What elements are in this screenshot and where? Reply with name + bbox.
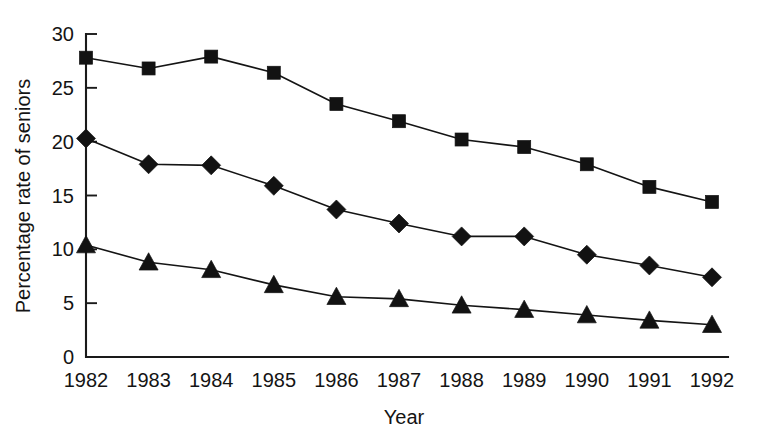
data-series — [77, 129, 722, 287]
y-tick-label: 15 — [52, 185, 74, 207]
y-axis-title: Percentage rate of seniors — [12, 79, 34, 314]
data-point-marker — [330, 97, 343, 110]
x-tick-label: 1984 — [189, 369, 234, 391]
x-tick-label: 1990 — [565, 369, 610, 391]
y-tick-label-group: 051015202530 — [52, 23, 74, 368]
data-series — [80, 50, 719, 208]
data-point-marker — [267, 66, 280, 79]
x-tick-label: 1985 — [252, 369, 297, 391]
data-point-marker — [393, 115, 406, 128]
axes-group — [86, 34, 728, 357]
data-point-marker — [264, 176, 283, 195]
data-point-marker — [515, 227, 534, 246]
y-tick-label: 20 — [52, 131, 74, 153]
series-group — [77, 50, 722, 332]
data-point-marker — [640, 256, 659, 275]
data-point-marker — [142, 62, 155, 75]
data-point-marker — [205, 50, 218, 63]
data-point-marker — [703, 268, 722, 287]
series-line — [86, 57, 712, 202]
x-axis-title: Year — [384, 406, 425, 428]
data-point-marker — [455, 133, 468, 146]
x-tick-label: 1988 — [439, 369, 484, 391]
data-point-marker — [77, 236, 96, 253]
data-point-marker — [202, 156, 221, 175]
data-point-marker — [518, 141, 531, 154]
y-tick-label: 25 — [52, 77, 74, 99]
x-tick-label: 1987 — [377, 369, 422, 391]
data-point-marker — [580, 158, 593, 171]
x-tick-label: 1983 — [126, 369, 171, 391]
series-line — [86, 245, 712, 325]
data-point-marker — [577, 245, 596, 264]
data-point-marker — [643, 180, 656, 193]
data-point-marker — [139, 155, 158, 174]
axis-spines — [86, 34, 728, 357]
x-tick-label: 1982 — [64, 369, 109, 391]
line-chart: 051015202530 198219831984198519861987198… — [0, 0, 757, 433]
data-point-marker — [139, 253, 158, 270]
data-point-marker — [390, 214, 409, 233]
data-point-marker — [706, 195, 719, 208]
x-tick-label-group: 1982198319841985198619871988198919901991… — [64, 369, 735, 391]
y-tick-label: 5 — [63, 292, 74, 314]
y-tick-label: 0 — [63, 346, 74, 368]
x-tick-label: 1992 — [690, 369, 735, 391]
y-tick-label: 30 — [52, 23, 74, 45]
x-tick-label: 1989 — [502, 369, 547, 391]
plot-area: 051015202530 198219831984198519861987198… — [52, 23, 735, 391]
x-tick-label: 1991 — [627, 369, 672, 391]
data-point-marker — [452, 227, 471, 246]
data-series — [77, 236, 722, 333]
data-point-marker — [77, 129, 96, 148]
y-tick-label: 10 — [52, 238, 74, 260]
x-tick-label: 1986 — [314, 369, 359, 391]
y-tick-group — [86, 34, 97, 357]
chart-figure: 051015202530 198219831984198519861987198… — [0, 0, 757, 433]
series-line — [86, 138, 712, 277]
data-point-marker — [327, 200, 346, 219]
data-point-marker — [80, 51, 93, 64]
